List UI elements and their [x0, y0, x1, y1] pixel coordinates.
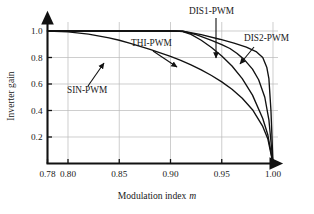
series-label-dis2-pwm: DIS2-PWM: [244, 33, 289, 43]
leader-line-sin-pwm: [88, 63, 104, 86]
curve-dis1-pwm: [48, 31, 274, 164]
x-tick-label: 0.78: [39, 169, 55, 179]
series-label-dis1-pwm: DIS1-PWM: [189, 6, 234, 16]
inverter-gain-line-chart: 0.780.800.850.900.951.00 0.20.40.60.81.0…: [0, 0, 314, 214]
x-axis-title: Modulation indexm: [118, 190, 196, 201]
x-tick-label: 0.90: [162, 169, 178, 179]
plot-curves: [48, 31, 274, 164]
y-tick-labels: 0.20.40.60.81.0: [31, 26, 43, 142]
y-tick-label: 1.0: [31, 26, 43, 36]
series-label-thi-pwm: THI-PWM: [131, 38, 172, 48]
series-label-sin-pwm: SIN-PWM: [67, 85, 107, 95]
x-tick-labels: 0.780.800.850.900.951.00: [39, 169, 281, 179]
series-annotations: SIN-PWMTHI-PWMDIS1-PWMDIS2-PWM: [67, 6, 289, 95]
leader-line-dis2-pwm: [240, 47, 254, 64]
x-tick-label: 0.80: [60, 169, 76, 179]
curve-dis2-pwm: [48, 31, 274, 164]
x-tick-label: 0.95: [214, 169, 230, 179]
curve-thi-pwm: [48, 31, 274, 164]
y-tick-label: 0.2: [31, 132, 43, 142]
chart-figure: 0.780.800.850.900.951.00 0.20.40.60.81.0…: [0, 0, 314, 214]
x-tick-label: 1.00: [265, 169, 281, 179]
y-tick-label: 0.8: [31, 53, 43, 63]
x-tick-label: 0.85: [111, 169, 127, 179]
curve-sin-pwm: [48, 31, 274, 164]
y-tick-label: 0.4: [31, 106, 43, 116]
y-tick-label: 0.6: [31, 79, 43, 89]
leader-line-thi-pwm: [153, 51, 177, 67]
y-axis-title: Inverter gain: [5, 71, 16, 120]
